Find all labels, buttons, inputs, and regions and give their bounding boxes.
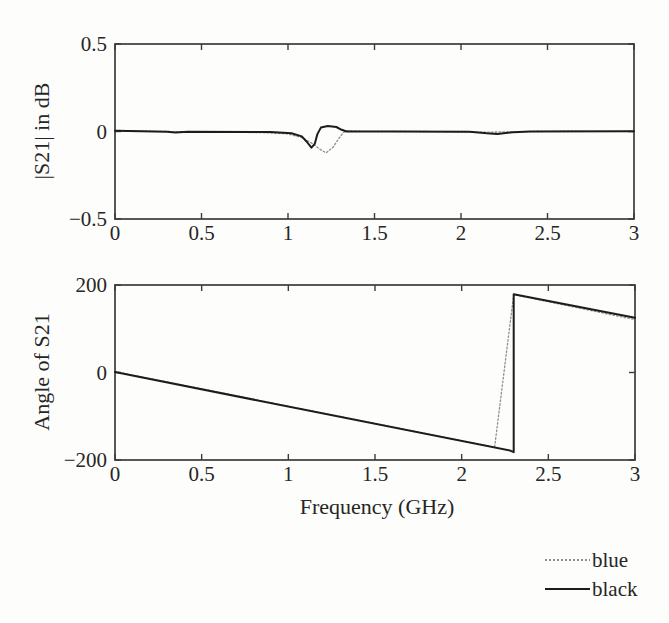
x-tick-label: 3 bbox=[629, 221, 640, 245]
y-tick-label: 0 bbox=[97, 361, 108, 385]
y-tick-label: −200 bbox=[64, 448, 107, 472]
y-tick-label: 200 bbox=[76, 273, 108, 297]
series-black-line bbox=[115, 294, 635, 452]
series-blue-line bbox=[115, 130, 634, 152]
x-tick-label: 2.5 bbox=[535, 462, 561, 486]
blue-line-swatch bbox=[545, 559, 590, 561]
figure: 00.511.522.53−0.500.500.511.522.53−20002… bbox=[0, 0, 669, 623]
x-tick-label: 0 bbox=[110, 462, 121, 486]
x-tick-label: 1 bbox=[283, 221, 294, 245]
angle-y-axis-title: Angle of S21 bbox=[29, 313, 55, 430]
y-tick-label: −0.5 bbox=[69, 207, 107, 231]
s-parameter-plots: 00.511.522.53−0.500.500.511.522.53−20002… bbox=[0, 0, 669, 623]
magnitude-y-axis-title: |S21| in dB bbox=[29, 83, 55, 180]
legend-item-blue: blue bbox=[545, 549, 637, 571]
x-tick-label: 1.5 bbox=[361, 221, 387, 245]
plot-s21-magnitude: 00.511.522.53−0.500.5 bbox=[69, 32, 639, 245]
x-tick-label: 0.5 bbox=[188, 221, 214, 245]
legend-label-blue: blue bbox=[592, 549, 628, 571]
plot-s21-angle: 00.511.522.53−2000200 bbox=[64, 273, 641, 486]
x-tick-label: 0.5 bbox=[189, 462, 215, 486]
x-tick-label: 0 bbox=[110, 221, 121, 245]
x-tick-label: 1.5 bbox=[362, 462, 388, 486]
black-line-swatch bbox=[545, 588, 590, 591]
frequency-x-axis-title: Frequency (GHz) bbox=[300, 494, 455, 520]
x-tick-label: 2 bbox=[456, 221, 467, 245]
legend-label-black: black bbox=[592, 578, 637, 600]
legend: blue black bbox=[545, 549, 637, 600]
x-tick-label: 1 bbox=[283, 462, 294, 486]
series-black-line bbox=[115, 126, 634, 148]
x-tick-label: 3 bbox=[630, 462, 641, 486]
y-tick-label: 0.5 bbox=[81, 32, 107, 56]
x-tick-label: 2 bbox=[456, 462, 467, 486]
axes-box bbox=[115, 285, 635, 460]
x-tick-label: 2.5 bbox=[534, 221, 560, 245]
legend-item-black: black bbox=[545, 578, 637, 600]
y-tick-label: 0 bbox=[97, 120, 108, 144]
